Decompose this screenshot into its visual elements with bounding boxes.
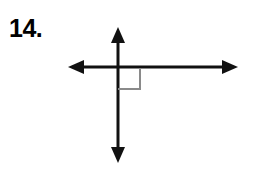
horizontal-double-arrow-group bbox=[68, 60, 238, 74]
left-arrowhead bbox=[68, 60, 84, 74]
right-arrowhead bbox=[222, 60, 238, 74]
screenshot-root: 14. bbox=[0, 0, 259, 173]
bottom-arrowhead bbox=[111, 147, 125, 163]
right-angle-square-icon bbox=[118, 68, 140, 89]
top-arrowhead bbox=[111, 27, 125, 43]
perpendicular-lines-figure bbox=[0, 0, 259, 173]
vertical-double-arrow-group bbox=[111, 27, 125, 163]
